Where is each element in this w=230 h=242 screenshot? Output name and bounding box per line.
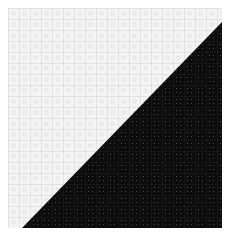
split-texture-tile (8, 8, 222, 228)
texture-graphic (8, 8, 222, 228)
